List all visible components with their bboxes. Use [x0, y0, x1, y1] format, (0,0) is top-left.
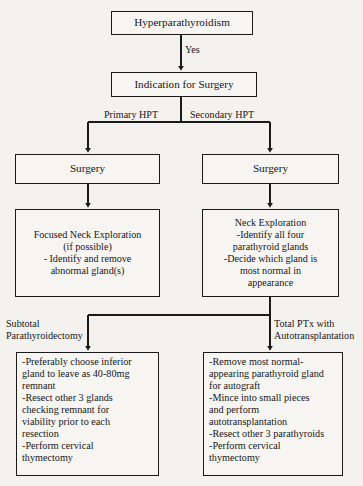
node-surgery-primary-label: Surgery	[16, 162, 159, 175]
node-surgery-primary: Surgery	[15, 154, 160, 184]
edge-label-primary-hpt: Primary HPT	[104, 109, 158, 121]
node-focused-neck-exploration-label: Focused Neck Exploration (if possible) -…	[16, 229, 159, 277]
edge-label-subtotal-parathyroidectomy: Subtotal Parathyroidectomy	[6, 318, 83, 342]
node-surgery-secondary: Surgery	[202, 154, 339, 184]
node-neck-exploration-label: Neck Exploration -Identify all four para…	[203, 217, 338, 288]
node-neck-exploration: Neck Exploration -Identify all four para…	[202, 209, 339, 297]
node-total-ptx-autotransplantation-steps-label: -Remove most normal- appearing parathyro…	[204, 353, 342, 464]
flowchart-diagram: Hyperparathyroidism Indication for Surge…	[0, 0, 363, 486]
node-indication-for-surgery-label: Indication for Surgery	[112, 78, 256, 91]
node-hyperparathyroidism: Hyperparathyroidism	[111, 11, 253, 35]
edge-label-total-ptx-with-autotransplantation: Total PTx with Autotransplantation	[274, 318, 354, 342]
node-focused-neck-exploration: Focused Neck Exploration (if possible) -…	[15, 209, 160, 297]
node-hyperparathyroidism-label: Hyperparathyroidism	[112, 16, 252, 29]
node-subtotal-parathyroidectomy-steps: -Preferably choose inferior gland to lea…	[16, 352, 159, 476]
node-surgery-secondary-label: Surgery	[203, 162, 338, 175]
edge-label-secondary-hpt: Secondary HPT	[190, 109, 254, 121]
edge-label-yes: Yes	[185, 44, 200, 56]
node-indication-for-surgery: Indication for Surgery	[111, 72, 257, 97]
node-total-ptx-autotransplantation-steps: -Remove most normal- appearing parathyro…	[203, 352, 343, 476]
node-subtotal-parathyroidectomy-steps-label: -Preferably choose inferior gland to lea…	[17, 353, 158, 464]
